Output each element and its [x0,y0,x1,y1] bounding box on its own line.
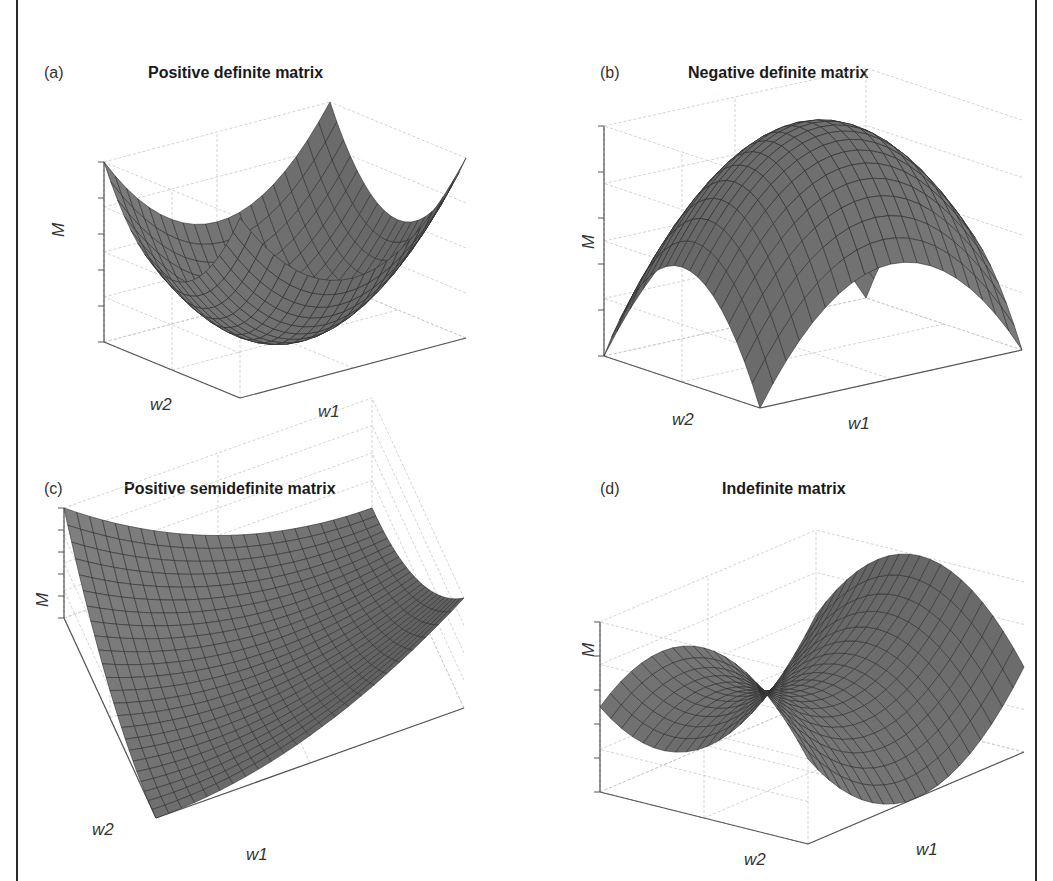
surface-plot [526,0,1046,440]
surface-mesh [604,120,1022,408]
figure-frame: (a) Positive definite matrix M w2 w1 (b)… [0,0,1053,881]
panel-b: (b) Negative definite matrix M w2 w1 [526,0,1046,440]
y-axis-label: w2 [672,410,694,430]
z-axis-label: M [579,643,599,657]
x-axis-label: w1 [848,414,870,434]
y-axis-label: w2 [150,395,172,415]
surface-plot [0,0,520,440]
z-axis-label: M [33,593,53,607]
surface-mesh [64,508,464,818]
surface-mesh [104,102,466,344]
z-axis-label: M [579,235,599,249]
x-axis-label: w1 [916,840,938,860]
y-axis-label: w2 [92,820,114,840]
surface-plot [526,440,1046,881]
x-axis-label: w1 [318,402,340,422]
z-axis-label: M [49,223,69,237]
surface-plot [0,440,520,881]
y-axis-label: w2 [744,850,766,870]
panel-d: (d) Indefinite matrix M w2 w1 [526,440,1046,881]
panel-a: (a) Positive definite matrix M w2 w1 [0,0,520,440]
surface-mesh [600,554,1024,804]
panel-c: (c) Positive semidefinite matrix M w2 w1 [0,440,520,881]
x-axis-label: w1 [246,845,268,865]
